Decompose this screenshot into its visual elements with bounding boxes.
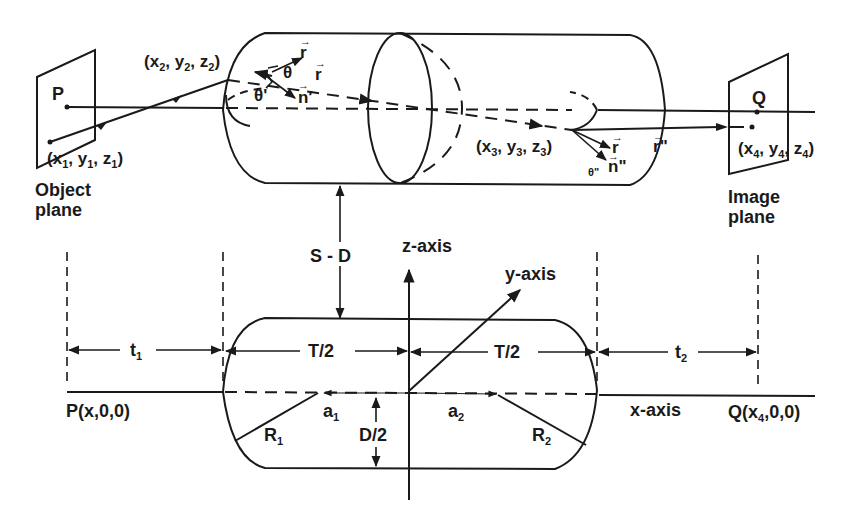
z-axis-label: z-axis bbox=[402, 236, 452, 256]
a1-label: a1 bbox=[323, 401, 339, 423]
t2-label: t2 bbox=[675, 342, 687, 364]
image-plane: Q (x4, y4, z4) Image plane bbox=[728, 54, 814, 227]
point-p-origin-label: P(x,0,0) bbox=[66, 401, 130, 421]
t-half-left-label: T/2 bbox=[308, 341, 334, 361]
refracted-ray bbox=[228, 80, 572, 130]
theta-double-prime-label: θ" bbox=[588, 166, 599, 178]
point-x4-dot bbox=[750, 125, 755, 130]
svg-text:(x3, y3, z3): (x3, y3, z3) bbox=[476, 137, 552, 158]
vector-r-double-prime bbox=[572, 130, 610, 148]
image-plane-caption-1: Image bbox=[728, 187, 780, 207]
point-q-dot bbox=[755, 110, 760, 115]
y-axis-label: y-axis bbox=[505, 264, 556, 284]
point-q-label: Q bbox=[752, 88, 766, 108]
d-half-label: D/2 bbox=[359, 425, 387, 445]
svg-text:(x1, y1, z1): (x1, y1, z1) bbox=[47, 149, 123, 170]
t1-label: t1 bbox=[130, 340, 142, 362]
svg-text:(x4, y4, z4): (x4, y4, z4) bbox=[738, 139, 814, 160]
optical-axis-inside-lens bbox=[226, 108, 572, 110]
normal-vector-n-double-prime bbox=[572, 130, 606, 160]
r1-label: R1 bbox=[264, 425, 283, 447]
object-plane-caption-2: plane bbox=[35, 200, 82, 220]
a2-label: a2 bbox=[448, 401, 464, 423]
point-q-origin-label: Q(x4,0,0) bbox=[728, 402, 800, 424]
vector-arrow-mark: → bbox=[298, 79, 309, 91]
lens-ray-trace-diagram: P (x1, y1, z1) Object plane r → θ r → θ'… bbox=[0, 0, 864, 525]
incoming-ray bbox=[50, 80, 228, 142]
theta-label: θ bbox=[283, 63, 292, 82]
entry-point-coord-label: (x2, y2, z2) bbox=[144, 52, 220, 73]
x-axis-right bbox=[599, 395, 815, 396]
y-axis bbox=[409, 290, 520, 391]
t-half-right-label: T/2 bbox=[494, 342, 520, 362]
r2-label: R2 bbox=[532, 425, 551, 447]
image-plane-caption-2: plane bbox=[728, 207, 775, 227]
exit-point-coord-label: (x3, y3, z3) bbox=[476, 137, 552, 158]
theta-prime-label: θ' bbox=[254, 86, 267, 105]
object-coord-label: (x1, y1, z1) bbox=[47, 149, 123, 170]
optical-axis-right bbox=[598, 110, 815, 112]
vector-arrow-mark: → bbox=[300, 35, 311, 47]
point-p-label: P bbox=[52, 84, 64, 104]
image-coord-label: (x4, y4, z4) bbox=[738, 139, 814, 160]
object-plane: P (x1, y1, z1) Object plane bbox=[35, 50, 123, 220]
object-plane-caption-1: Object bbox=[35, 180, 91, 200]
vector-arrow-mark: → bbox=[315, 57, 326, 69]
x-axis-label: x-axis bbox=[630, 400, 681, 420]
vector-arrow-mark: → bbox=[608, 150, 619, 162]
outgoing-ray bbox=[572, 127, 720, 130]
vector-arrow-mark: → bbox=[612, 131, 623, 143]
vector-arrow-mark: → bbox=[653, 130, 664, 142]
svg-text:(x2, y2, z2): (x2, y2, z2) bbox=[144, 52, 220, 73]
separation-label: S - D bbox=[310, 246, 351, 266]
x-axis-inside-lens bbox=[225, 392, 597, 394]
